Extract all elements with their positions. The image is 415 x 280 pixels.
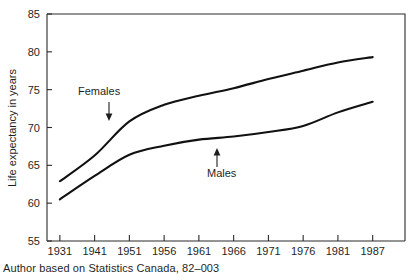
x-tick-label: 1961: [187, 245, 211, 257]
x-tick-label: 1931: [48, 245, 72, 257]
y-tick-label: 85: [28, 8, 40, 20]
y-tick-label: 80: [28, 46, 40, 58]
x-tick-label: 1941: [82, 245, 106, 257]
y-axis-title: Life expectancy in years: [6, 68, 18, 187]
x-tick-marks: [60, 235, 373, 241]
x-tick-label: 1951: [117, 245, 141, 257]
life-expectancy-chart-figure: 55606570758085 1931194119511956196119661…: [0, 0, 415, 280]
up-arrow-icon: [214, 148, 221, 167]
y-tick-label: 60: [28, 197, 40, 209]
y-tick-label: 65: [28, 159, 40, 171]
plot-frame: [47, 14, 405, 241]
x-tick-label: 1976: [291, 245, 315, 257]
chart-canvas: 55606570758085 1931194119511956196119661…: [0, 0, 415, 280]
x-tick-label: 1987: [360, 245, 384, 257]
x-tick-label: 1966: [221, 245, 245, 257]
females-annotation-label: Females: [78, 85, 121, 97]
x-tick-labels: 1931194119511956196119661971197619811987: [48, 245, 385, 257]
y-tick-label: 70: [28, 122, 40, 134]
x-tick-label: 1981: [326, 245, 350, 257]
males-annotation-label: Males: [207, 167, 237, 179]
y-tick-marks: [47, 14, 52, 241]
source-caption: Author based on Statistics Canada, 82–00…: [3, 262, 219, 274]
y-tick-label: 55: [28, 235, 40, 247]
x-tick-label: 1971: [256, 245, 280, 257]
y-tick-labels: 55606570758085: [28, 8, 40, 247]
x-tick-label: 1956: [152, 245, 176, 257]
series-line-females: [60, 57, 373, 181]
y-tick-label: 75: [28, 84, 40, 96]
down-arrow-icon: [106, 102, 113, 121]
